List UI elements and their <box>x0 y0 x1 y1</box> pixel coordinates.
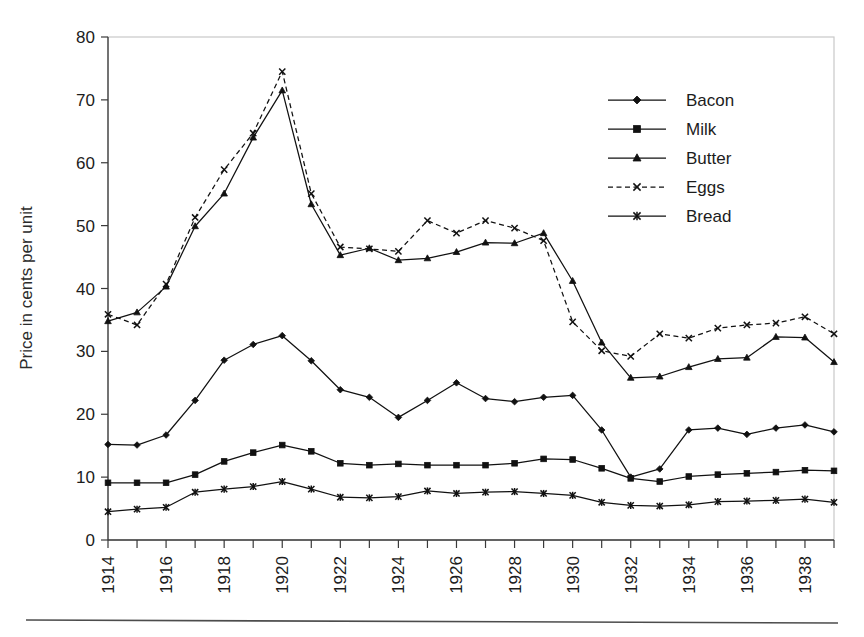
x-tick-label: 1924 <box>389 556 408 594</box>
data-point-square <box>512 460 518 466</box>
x-tick-label: 1930 <box>564 556 583 594</box>
data-point-square <box>686 474 692 480</box>
data-point-square <box>634 126 641 133</box>
x-tick-label: 1920 <box>273 556 292 594</box>
data-point-square <box>425 462 431 468</box>
y-tick-label: 0 <box>86 531 95 550</box>
x-tick-label: 1932 <box>622 556 641 594</box>
legend-label: Bread <box>686 207 731 226</box>
x-tick-label: 1928 <box>506 556 525 594</box>
data-point-square <box>628 476 634 482</box>
data-point-square <box>308 449 314 455</box>
data-point-square <box>192 472 198 478</box>
data-point-square <box>454 462 460 468</box>
data-point-square <box>831 468 837 474</box>
y-tick-label: 50 <box>76 217 95 236</box>
legend-label: Bacon <box>686 91 734 110</box>
data-point-square <box>715 472 721 478</box>
legend-label: Eggs <box>686 178 725 197</box>
data-point-square <box>657 479 663 485</box>
data-point-square <box>570 457 576 463</box>
data-point-square <box>396 461 402 467</box>
x-tick-label: 1922 <box>331 556 350 594</box>
legend-label: Butter <box>686 149 732 168</box>
legend-label: Milk <box>686 120 717 139</box>
data-point-square <box>250 450 256 456</box>
x-tick-label: 1914 <box>99 556 118 594</box>
chart-background <box>0 0 864 637</box>
y-tick-label: 80 <box>76 28 95 47</box>
data-point-square <box>221 459 227 465</box>
y-tick-label: 30 <box>76 342 95 361</box>
data-point-square <box>483 462 489 468</box>
data-point-square <box>163 480 169 486</box>
data-point-square <box>367 462 373 468</box>
x-tick-label: 1934 <box>680 556 699 594</box>
data-point-square <box>802 467 808 473</box>
data-point-square <box>541 456 547 462</box>
data-point-square <box>773 469 779 475</box>
data-point-square <box>105 480 111 486</box>
x-tick-label: 1938 <box>796 556 815 594</box>
x-tick-label: 1916 <box>157 556 176 594</box>
x-tick-label: 1936 <box>738 556 757 594</box>
data-point-square <box>134 480 140 486</box>
data-point-square <box>599 466 605 472</box>
x-tick-label: 1918 <box>215 556 234 594</box>
data-point-square <box>338 460 344 466</box>
y-axis-tick-labels: 01020304050607080 <box>76 28 95 550</box>
data-point-square <box>744 471 750 477</box>
y-tick-label: 10 <box>76 468 95 487</box>
y-tick-label: 60 <box>76 154 95 173</box>
data-point-square <box>279 442 285 448</box>
y-tick-label: 20 <box>76 405 95 424</box>
y-tick-label: 70 <box>76 91 95 110</box>
y-axis-title: Price in cents per unit <box>17 206 36 370</box>
y-tick-label: 40 <box>76 280 95 299</box>
price-line-chart: 01020304050607080 1914191619181920192219… <box>0 0 864 637</box>
x-tick-label: 1926 <box>447 556 466 594</box>
